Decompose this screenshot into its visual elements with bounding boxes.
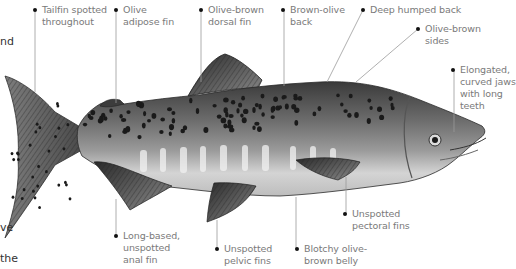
body-spot (367, 118, 371, 124)
bullet-icon (33, 8, 37, 12)
body-spot (354, 112, 359, 118)
body-spot (169, 124, 174, 130)
tail-spot (12, 196, 15, 199)
tail-spot (16, 152, 19, 155)
tail-spot (23, 188, 26, 191)
bullet-icon (361, 8, 365, 12)
body-spot (343, 109, 347, 113)
body-spot (294, 120, 298, 126)
body-spot (318, 106, 322, 111)
body-spot (293, 97, 298, 101)
body-spot (379, 115, 384, 120)
body-spot (298, 96, 303, 101)
body-spot (377, 107, 382, 112)
tail-spot (37, 165, 40, 168)
body-spot (136, 101, 141, 107)
tail-spot (17, 158, 20, 161)
body-spot (369, 106, 372, 110)
tail-spot (11, 152, 14, 155)
body-spot (152, 113, 157, 119)
body-spot (252, 107, 255, 113)
body-spot (257, 126, 262, 132)
callout-sides: Olive-brown sides (425, 23, 481, 47)
bullet-icon (343, 212, 347, 216)
leader-sides (356, 29, 418, 82)
body-spot (229, 128, 234, 133)
body-spot (196, 108, 199, 114)
tail-spot (35, 130, 38, 133)
body-spot (261, 94, 265, 99)
tail-spot (66, 123, 69, 126)
tail-spot (69, 197, 72, 200)
bullet-icon (281, 8, 285, 12)
body-spot (143, 111, 146, 116)
body-spot (271, 115, 275, 119)
clipped-text-fragment: ve (0, 221, 13, 234)
body-spot (255, 103, 259, 107)
body-spot (241, 96, 245, 101)
tail-spot (54, 135, 57, 138)
body-spot (83, 123, 87, 127)
tail-spot (32, 190, 35, 193)
body-spot (223, 124, 227, 129)
body-spot (101, 113, 105, 118)
callout-dorsal-fin: Olive-brown dorsal fin (208, 4, 264, 28)
body-spot (172, 118, 176, 123)
callout-back: Brown-olive back (290, 4, 345, 28)
body-spot (243, 109, 248, 114)
body-spot (282, 95, 285, 99)
tail-spot (45, 170, 48, 173)
tail-spot (36, 185, 39, 188)
body-spot (285, 103, 289, 109)
bullet-icon (114, 234, 118, 238)
body-spot (189, 98, 192, 104)
body-spot (238, 103, 242, 108)
body-spot (336, 94, 340, 98)
tail-spot (57, 184, 60, 187)
callout-humped-back: Deep humped back (370, 4, 461, 16)
pelvic-fin (207, 183, 256, 222)
body-spot (224, 107, 228, 113)
clipped-text-fragment: the (0, 252, 18, 265)
body-spot (217, 114, 222, 118)
body-spot (121, 118, 126, 122)
body-spot (389, 96, 393, 101)
body-spot (227, 125, 231, 129)
body-spot (119, 114, 122, 119)
tail-spot (21, 197, 24, 200)
tail-spot (63, 147, 66, 150)
eye-icon (432, 137, 438, 143)
body-spot (169, 131, 172, 136)
body-spot (90, 110, 95, 115)
body-spot (223, 98, 229, 103)
body-spot (240, 114, 243, 118)
tail-fin (5, 76, 82, 238)
bullet-icon (295, 247, 299, 251)
tail-spot (34, 196, 37, 199)
body-spot (137, 135, 141, 139)
body-spot (261, 112, 264, 117)
body-spot (126, 110, 130, 114)
body-spot (227, 119, 231, 125)
body-spot (254, 122, 259, 126)
bullet-icon (416, 27, 420, 31)
body-spot (258, 104, 262, 110)
tail-spot (48, 150, 51, 153)
body-spot (203, 127, 208, 133)
body-spot (88, 114, 91, 118)
callout-pelvic-fins: Unspotted pelvic fins (224, 243, 272, 267)
body-spot (109, 109, 113, 113)
body-spot (271, 107, 274, 113)
tail-spot (38, 206, 41, 209)
body-spot (242, 117, 247, 123)
body-spot (167, 107, 172, 111)
tail-spot (31, 175, 34, 178)
body-spot (291, 104, 296, 110)
body-spot (236, 108, 239, 114)
callout-anal-fin: Long-based, unspotted anal fin (123, 230, 180, 266)
tail-spot (29, 144, 32, 147)
body-spot (183, 125, 187, 130)
body-spot (347, 113, 351, 118)
body-spot (142, 123, 146, 129)
